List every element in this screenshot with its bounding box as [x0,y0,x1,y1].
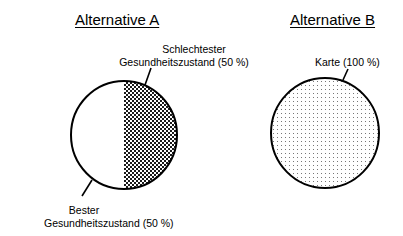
pie-alternative-a [71,68,177,196]
label-best-line1: Bester [26,204,142,217]
label-card: Karte (100 %) [315,56,380,69]
pie-charts [0,0,403,236]
pie-alternative-b [271,69,379,188]
label-worst-line1: Schlechtester [136,43,252,56]
leader-line-worst [145,68,151,85]
slice-best-health [71,81,124,189]
label-worst-line2: Gesundheitszustand (50 %) [116,56,252,69]
leader-line-best [82,180,92,196]
label-best-line2: Gesundheitszustand (50 %) [44,217,142,230]
leader-line-card [343,69,348,80]
label-best-health: Bester Gesundheitszustand (50 %) [26,204,142,230]
label-worst-health: Schlechtester Gesundheitszustand (50 %) [136,43,252,69]
slice-worst-health [124,81,177,189]
slice-card [271,78,379,188]
